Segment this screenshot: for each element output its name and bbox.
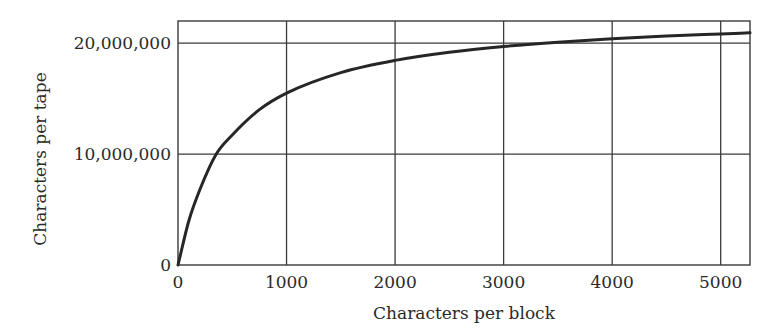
plot-frame xyxy=(178,21,750,265)
x-tick-label: 4000 xyxy=(591,272,634,292)
chart: 010002000300040005000 010,000,00020,000,… xyxy=(0,0,778,335)
x-tick-label: 5000 xyxy=(699,272,742,292)
y-axis-label: Characters per tape xyxy=(30,72,50,245)
y-tick-label: 20,000,000 xyxy=(74,33,171,53)
horizontal-gridlines xyxy=(178,43,750,154)
x-tick-label: 1000 xyxy=(265,272,308,292)
x-axis-ticks: 010002000300040005000 xyxy=(173,272,743,292)
y-axis-ticks: 010,000,00020,000,000 xyxy=(74,33,171,275)
x-tick-label: 3000 xyxy=(482,272,525,292)
x-axis-label: Characters per block xyxy=(373,303,556,323)
vertical-gridlines xyxy=(287,21,721,265)
y-tick-label: 0 xyxy=(160,255,171,275)
x-tick-label: 0 xyxy=(173,272,184,292)
y-tick-label: 10,000,000 xyxy=(74,144,171,164)
x-tick-label: 2000 xyxy=(373,272,416,292)
data-series-line xyxy=(178,33,750,265)
